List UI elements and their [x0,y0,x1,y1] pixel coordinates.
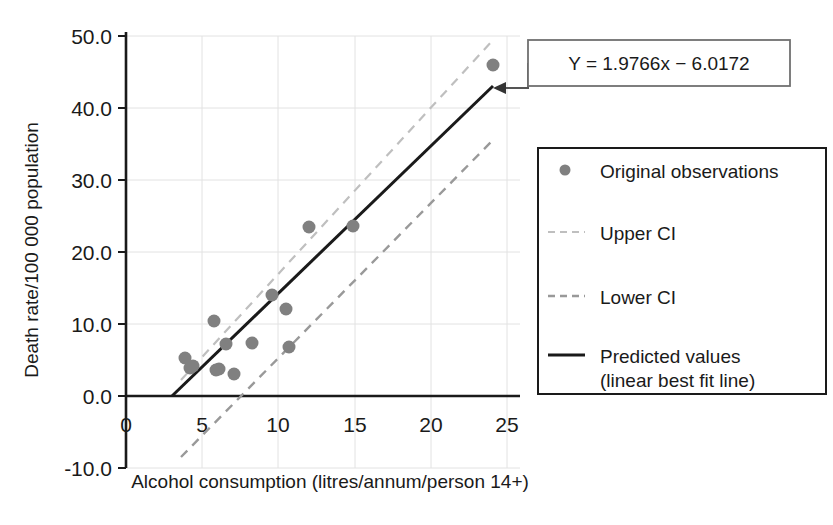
y-axis [118,32,126,468]
equation-text: Y = 1.9766x − 6.0172 [568,53,749,74]
legend-dot-icon [560,165,571,176]
data-point [220,338,233,351]
predicted-values-line [172,86,493,396]
y-axis-title: Death rate/100 000 population [21,122,42,378]
x-tick-label: 20 [419,413,442,436]
x-tick-label: 15 [343,413,366,436]
y-tick-label: 30.0 [71,169,112,192]
legend-label: Original observations [600,161,778,182]
data-point [303,221,316,234]
y-tick-label: 20.0 [71,241,112,264]
y-tick-label: 0.0 [83,385,112,408]
x-tick-label: 0 [120,413,132,436]
data-point [266,289,279,302]
y-tick-label: 50.0 [71,25,112,48]
legend-sublabel: (linear best fit line) [600,370,755,391]
legend-label: Lower CI [600,287,676,308]
data-point [246,337,259,350]
data-point [280,303,293,316]
data-point [487,59,500,72]
data-point [208,315,221,328]
data-point [213,363,226,376]
x-tick-label: 10 [266,413,289,436]
x-tick-labels: 0 5 10 15 20 25 [120,413,519,436]
y-tick-label: 40.0 [71,97,112,120]
equation-annotation: Y = 1.9766x − 6.0172 [493,40,790,94]
data-point [283,341,296,354]
legend-label: Upper CI [600,223,676,244]
x-tick-label: 25 [495,413,518,436]
x-axis [126,396,520,404]
data-point [347,220,360,233]
scatter-chart-svg: 50.0 40.0 30.0 20.0 10.0 0.0 -10.0 0 5 1… [0,0,833,525]
y-tick-label: -10.0 [64,457,112,480]
upper-ci-line [181,40,493,380]
data-point [187,360,200,373]
y-tick-labels: 50.0 40.0 30.0 20.0 10.0 0.0 -10.0 [64,25,112,480]
chart-legend: Original observations Upper CI Lower CI … [538,148,826,394]
scatter-points [179,59,500,381]
data-point [228,368,241,381]
chart-figure: 50.0 40.0 30.0 20.0 10.0 0.0 -10.0 0 5 1… [0,0,833,525]
legend-label: Predicted values [600,346,740,367]
y-tick-label: 10.0 [71,313,112,336]
x-axis-title: Alcohol consumption (litres/annum/person… [131,471,529,492]
lower-ci-line [181,140,493,457]
